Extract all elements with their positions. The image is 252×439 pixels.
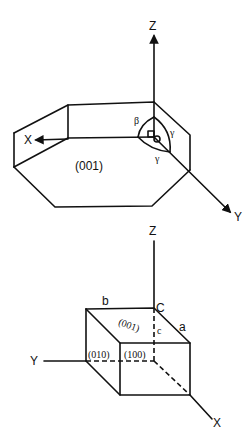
hexagon-bottom-edges [14,167,190,207]
right-angle-marker [148,131,154,137]
face-label-001: (001) [75,159,103,173]
orthorhombic-crystal-diagram: Z Y X b C a c (001) (010) (100) [30,224,221,430]
x-axis-label: X [24,133,32,147]
x-axis-line [190,395,212,419]
y-axis-label: Y [234,210,242,224]
face-label-001-box: (001) [117,316,141,335]
edge-label-a: a [179,320,186,334]
x-axis-label-2: X [213,416,221,430]
beta-label: β [134,115,139,126]
hidden-x-edge [154,361,190,395]
inner-top-edge [68,137,154,138]
y-axis-arrow [154,137,230,212]
edge-label-c: c [157,325,162,336]
z-axis-label: Z [149,19,156,33]
hexagonal-crystal-diagram: Z X Y β γ γ (001) [14,19,242,224]
z-axis-label-2: Z [149,224,156,238]
beta-arc [138,117,154,137]
box-bottom-left-edge [86,361,120,395]
y-axis-label-2: Y [30,354,38,368]
x-axis-arrow [36,139,68,140]
face-label-010: (010) [88,349,110,361]
gamma-arc-1 [154,117,170,152]
gamma-label-2: γ [154,153,160,164]
inner-left-edge [14,138,68,167]
gamma-label-1: γ [169,127,175,138]
edge-label-b: b [102,294,109,308]
crystal-axes-figure: Z X Y β γ γ (001) Z [0,0,252,439]
box-top-left-edge [86,309,120,343]
corner-label-c: C [156,301,165,315]
face-label-100: (100) [124,349,146,361]
